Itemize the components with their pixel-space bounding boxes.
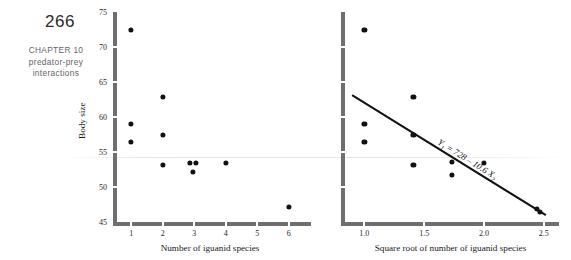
chart-left-y-tick-notch (112, 46, 117, 48)
chart-right-x-tick-label: 2.5 (539, 229, 549, 238)
chart-left-y-tick-label: 65 (85, 78, 107, 87)
chart-right-x-axis (341, 222, 559, 226)
chart-left-y-tick-notch (112, 81, 117, 83)
chart-left-y-tick-notch (112, 186, 117, 188)
chart-right-x-tick-notch (483, 221, 485, 226)
chart-right-y-tick-notch (340, 46, 345, 48)
chart-right-x-axis-title: Square root of number of iguanid species (375, 243, 527, 253)
chart-right-x-tick-label: 1.5 (419, 229, 429, 238)
chart-right-x-tick-label: 1.0 (359, 229, 369, 238)
chart-left-y-tick-label: 50 (85, 183, 107, 192)
chart-left-scatter (0, 0, 330, 260)
chart-right-x-tick-notch (543, 221, 545, 226)
chart-right-y-tick-notch (340, 116, 345, 118)
chart-left-y-tick-notch (112, 116, 117, 118)
chart-left-x-tick-label: 4 (224, 229, 228, 238)
chart-left-x-axis-title: Number of iguanid species (161, 243, 260, 253)
chart-left-y-tick-label: 75 (85, 8, 107, 17)
chart-left-x-tick-label: 3 (192, 229, 196, 238)
chart-left-y-tick-label: 45 (85, 218, 107, 227)
chart-right-x-tick-notch (363, 221, 365, 226)
chart-right-y-tick-notch (340, 186, 345, 188)
chart-left-x-tick-notch (288, 221, 290, 226)
chart-left-x-tick-label: 6 (287, 229, 291, 238)
chart-left-x-tick-notch (256, 221, 258, 226)
chart-left-x-tick-label: 1 (129, 229, 133, 238)
chart-left-y-axis (113, 12, 117, 226)
chart-right-y-axis (341, 12, 345, 226)
chart-left-y-tick-label: 60 (85, 113, 107, 122)
chart-left-x-tick-notch (225, 221, 227, 226)
chart-left-x-tick-label: 2 (161, 229, 165, 238)
chart-right-x-tick-notch (423, 221, 425, 226)
chart-left-y-axis-title: Body size (77, 103, 87, 140)
chart-left-x-tick-notch (130, 221, 132, 226)
chart-right-x-tick-label: 2.0 (479, 229, 489, 238)
chart-left-x-axis (113, 222, 311, 226)
chart-left-y-tick-label: 55 (85, 148, 107, 157)
chart-left-y-tick-notch (112, 151, 117, 153)
chart-left-x-tick-notch (193, 221, 195, 226)
chart-left-x-tick-notch (162, 221, 164, 226)
chart-left-y-tick-label: 70 (85, 43, 107, 52)
chart-right-y-tick-notch (340, 151, 345, 153)
chart-right-scatter (330, 0, 571, 260)
chart-right-y-tick-notch (340, 81, 345, 83)
chart-left-x-tick-label: 5 (255, 229, 259, 238)
